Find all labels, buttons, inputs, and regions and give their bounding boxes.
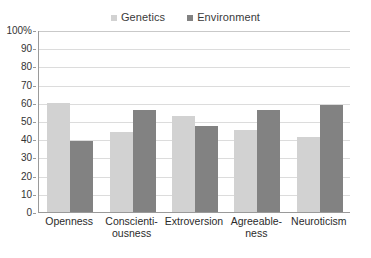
x-axis-label-line: ousness	[94, 227, 168, 239]
y-axis-tick-label: 20	[21, 172, 32, 182]
bar-genetics-agreeableness	[234, 130, 257, 212]
y-axis-tick-mark	[33, 67, 36, 68]
bar-genetics-neuroticism	[297, 137, 320, 212]
bar-environment-agreeableness	[257, 110, 280, 212]
y-axis-tick-mark	[33, 177, 36, 178]
bar-group	[110, 31, 156, 212]
bar-genetics-extroversion	[172, 116, 195, 212]
y-axis-tick-label: 100%	[6, 26, 32, 36]
bar-chart: Genetics Environment 100%908070605040302…	[0, 0, 371, 258]
x-axis-label-line: ness	[219, 227, 293, 239]
x-axis: OpennessConscienti-ousnessExtroversionAg…	[38, 215, 350, 255]
legend-label-genetics: Genetics	[121, 11, 165, 23]
y-axis-tick-label: 70	[21, 81, 32, 91]
bar-group	[234, 31, 280, 212]
y-axis-tick-label: 30	[21, 153, 32, 163]
y-axis-tick-mark	[33, 140, 36, 141]
y-axis-tick-mark	[33, 122, 36, 123]
y-axis-tick-mark	[33, 104, 36, 105]
plot-area	[38, 31, 350, 213]
y-axis-tick-mark	[33, 158, 36, 159]
y-axis-tick-mark	[33, 195, 36, 196]
y-axis-tick-mark	[33, 86, 36, 87]
legend-swatch-environment	[187, 15, 193, 21]
y-axis-tick-mark	[33, 31, 36, 32]
bar-group	[172, 31, 218, 212]
legend-label-environment: Environment	[197, 11, 260, 23]
x-axis-label: Neuroticism	[282, 215, 356, 227]
chart-legend: Genetics Environment	[0, 9, 371, 25]
bar-environment-extroversion	[195, 126, 218, 212]
y-axis-tick-label: 50	[21, 117, 32, 127]
x-axis-label-line: Neuroticism	[282, 215, 356, 227]
y-axis-tick-mark	[33, 49, 36, 50]
legend-item-genetics: Genetics	[111, 11, 165, 23]
bar-genetics-conscientiousness	[110, 132, 133, 212]
y-axis-tick-label: 80	[21, 62, 32, 72]
bar-genetics-openness	[47, 103, 70, 212]
bar-group	[47, 31, 93, 212]
y-axis-tick-label: 40	[21, 135, 32, 145]
legend-item-environment: Environment	[187, 11, 260, 23]
bars-layer	[39, 31, 350, 212]
y-axis-tick-label: 90	[21, 44, 32, 54]
legend-swatch-genetics	[111, 15, 117, 21]
bar-environment-conscientiousness	[133, 110, 156, 212]
bar-environment-openness	[70, 141, 93, 212]
y-axis-tick-label: 60	[21, 99, 32, 109]
y-axis-tick-label: 10	[21, 190, 32, 200]
y-axis: 100%9080706050403020100	[0, 31, 36, 213]
bar-group	[297, 31, 343, 212]
y-axis-tick-mark	[33, 213, 36, 214]
bar-environment-neuroticism	[320, 105, 343, 212]
